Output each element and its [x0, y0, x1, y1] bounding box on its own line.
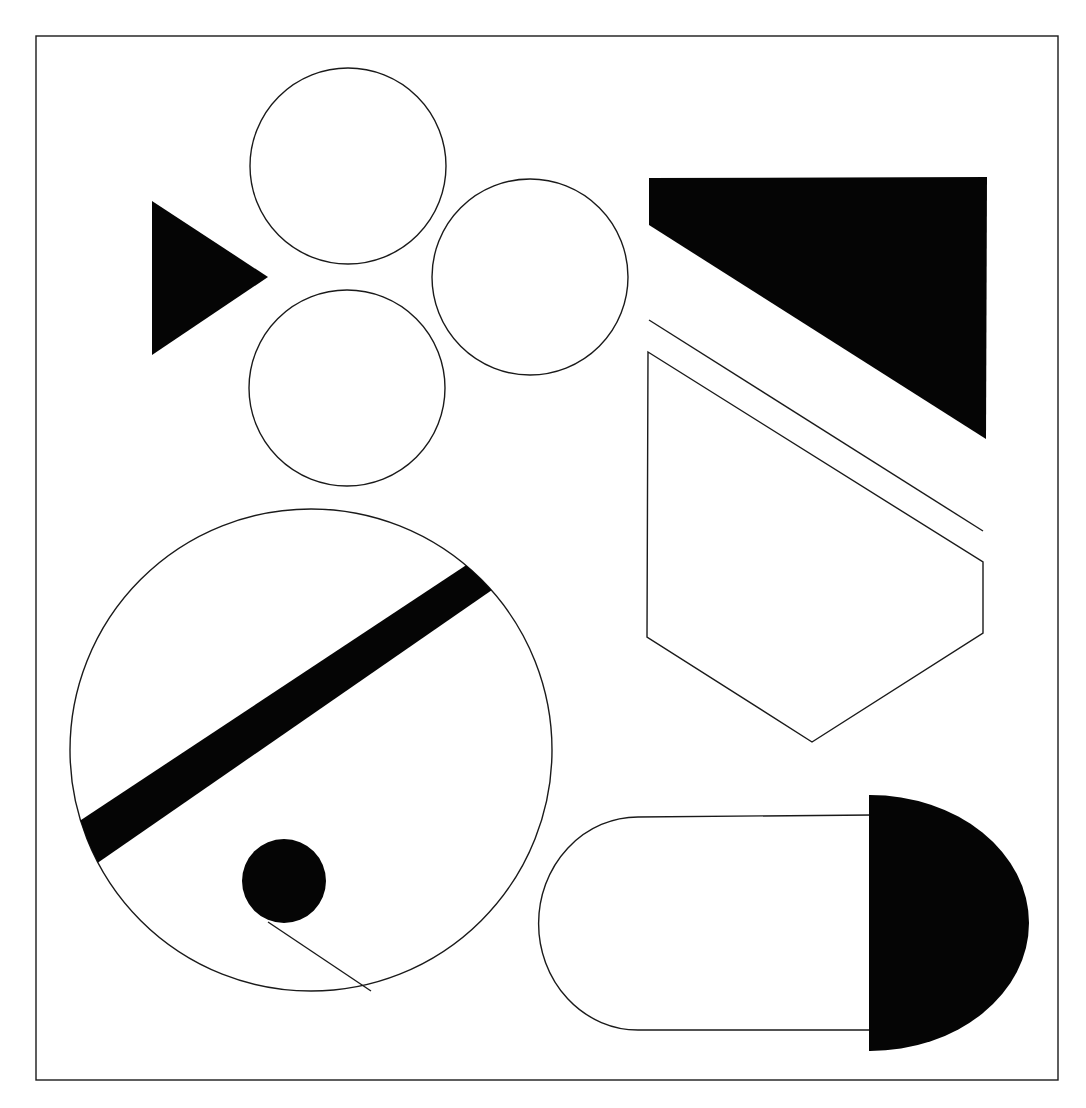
- circle-top: [250, 68, 446, 264]
- diagonal-band: [78, 556, 505, 864]
- circle-bottom: [249, 290, 445, 486]
- filled-triangle: [152, 201, 268, 355]
- small-dot: [242, 839, 326, 923]
- capsule-outline: [539, 815, 872, 1030]
- filled-trapezoid: [649, 177, 987, 439]
- circle-right: [432, 179, 628, 375]
- geometric-composition: [0, 0, 1086, 1108]
- tangent-line: [268, 922, 371, 991]
- filled-half-disk: [869, 795, 1029, 1051]
- pentagon-outline: [647, 352, 983, 742]
